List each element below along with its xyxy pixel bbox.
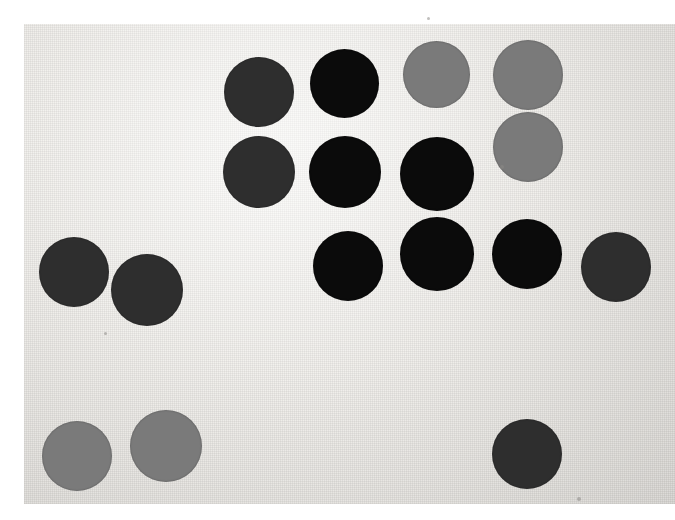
disc-gray-row1-c3 (403, 41, 470, 108)
disc-black-row1-c2 (310, 49, 379, 118)
disc-dark-col1-top (224, 57, 294, 127)
speck-mid-gray (500, 165, 504, 169)
disc-dark-left-lower (111, 254, 183, 326)
disc-black-row3-c3 (400, 217, 474, 291)
disc-black-row3-c4 (492, 219, 562, 289)
disc-black-row2-c3 (400, 137, 474, 211)
disc-dark-col1-bottom (223, 136, 295, 208)
disc-dark-left-upper (39, 237, 109, 307)
speck-left-low (104, 332, 107, 335)
disc-gray-row2-c4 (493, 112, 563, 182)
disc-dark-right-edge (581, 232, 651, 302)
speck-top-center (427, 17, 430, 20)
disc-gray-row1-c4 (493, 40, 563, 110)
disc-black-row2-c2 (309, 136, 381, 208)
disc-dark-bottom-right (492, 419, 562, 489)
disc-gray-bottom-left (42, 421, 112, 491)
disc-black-row3-c2 (313, 231, 383, 301)
photo-canvas (0, 0, 675, 520)
disc-gray-bottom-mid (130, 410, 202, 482)
speck-bottom (577, 497, 581, 501)
